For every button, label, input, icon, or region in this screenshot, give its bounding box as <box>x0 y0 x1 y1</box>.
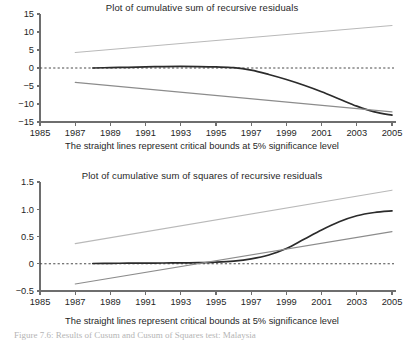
critical-bound-line <box>75 232 392 284</box>
chart-panel-cusum: 151050−5−10−1519851987198919911993199519… <box>0 0 404 156</box>
x-tick-label: 1989 <box>100 128 121 138</box>
x-tick-label: 1995 <box>206 297 227 307</box>
y-tick-label: 10 <box>24 27 34 37</box>
x-tick-label: 1985 <box>30 128 51 138</box>
y-tick-label: −5 <box>23 81 34 91</box>
x-tick-label: 1993 <box>170 297 191 307</box>
y-tick-label: 0 <box>29 259 34 269</box>
x-tick-label: 1999 <box>276 297 297 307</box>
x-tick-label: 1997 <box>241 128 262 138</box>
chart-panel-cusumsq: 1.51.00.50−0.519851987198919911993199519… <box>0 165 404 341</box>
critical-bound-line <box>75 190 392 243</box>
x-tick-label: 2003 <box>346 297 367 307</box>
data-series-line <box>93 211 392 264</box>
y-tick-label: 15 <box>24 9 34 19</box>
x-tick-label: 1993 <box>170 128 191 138</box>
x-tick-label: 1999 <box>276 128 297 138</box>
y-tick-label: −10 <box>18 99 34 109</box>
x-tick-label: 1985 <box>30 297 51 307</box>
chart-subtitle-cusum: The straight lines represent critical bo… <box>0 141 404 151</box>
x-tick-label: 2001 <box>311 128 332 138</box>
chart-subtitle-cusumsq: The straight lines represent critical bo… <box>0 316 404 326</box>
x-tick-label: 1991 <box>135 297 156 307</box>
cusumsq-plot-svg: 1.51.00.50−0.519851987198919911993199519… <box>0 165 404 341</box>
x-tick-label: 1987 <box>65 128 86 138</box>
figure-container: Plot of cumulative sum of recursive resi… <box>0 0 404 341</box>
x-tick-label: 2005 <box>382 128 403 138</box>
y-tick-label: −0.5 <box>16 286 34 296</box>
y-tick-label: 1.0 <box>21 205 34 215</box>
y-tick-label: −15 <box>18 117 34 127</box>
critical-bound-line <box>75 26 392 53</box>
x-tick-label: 1987 <box>65 297 86 307</box>
x-tick-label: 2003 <box>346 128 367 138</box>
y-tick-label: 1.5 <box>21 177 34 187</box>
x-tick-label: 1995 <box>206 128 227 138</box>
x-tick-label: 2005 <box>382 297 403 307</box>
x-tick-label: 1989 <box>100 297 121 307</box>
y-tick-label: 5 <box>29 45 34 55</box>
cusum-plot-svg: 151050−5−10−1519851987198919911993199519… <box>0 0 404 156</box>
y-tick-label: 0.5 <box>21 232 34 242</box>
critical-bound-line <box>75 82 392 112</box>
figure-caption: Figure 7.6: Results of Cusum and Cusum o… <box>14 330 404 340</box>
y-tick-label: 0 <box>29 63 34 73</box>
x-tick-label: 2001 <box>311 297 332 307</box>
x-tick-label: 1997 <box>241 297 262 307</box>
x-tick-label: 1991 <box>135 128 156 138</box>
